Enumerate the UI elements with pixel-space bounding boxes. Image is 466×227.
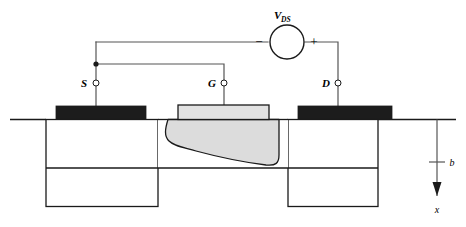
- circuit-wiring: [96, 42, 338, 113]
- voltage-source-plus-sign: +: [310, 34, 317, 49]
- drain-terminal-node[interactable]: [335, 80, 341, 86]
- diagram-canvas: − + V DS S G D: [0, 0, 466, 227]
- drain-mesa-body: [288, 120, 378, 207]
- voltage-source-circle: [270, 25, 304, 59]
- source-mesa-body: [46, 120, 158, 207]
- voltage-source-label-subscript: DS: [280, 15, 291, 24]
- gate-terminal-node[interactable]: [221, 80, 227, 86]
- source-terminal-label: S: [81, 77, 87, 89]
- wire-gate-branch: [96, 64, 224, 105]
- depth-axis-arrowhead: [433, 182, 442, 196]
- wire-junction-dot: [93, 61, 98, 66]
- voltage-source-symbol: [270, 25, 304, 59]
- depth-axis: [429, 120, 445, 197]
- depth-axis-x-label: x: [434, 204, 440, 215]
- drain-terminal-label: D: [321, 77, 330, 89]
- mesfet-cross-section-figure: − + V DS S G D: [0, 0, 466, 227]
- depth-axis-b-label: b: [450, 157, 455, 168]
- source-contact-metal: [56, 106, 146, 119]
- gate-terminal-label: G: [208, 77, 216, 89]
- voltage-source-minus-sign: −: [255, 34, 262, 49]
- drain-contact-metal: [298, 106, 392, 119]
- gate-contact-metal: [178, 105, 269, 120]
- source-terminal-node[interactable]: [93, 80, 99, 86]
